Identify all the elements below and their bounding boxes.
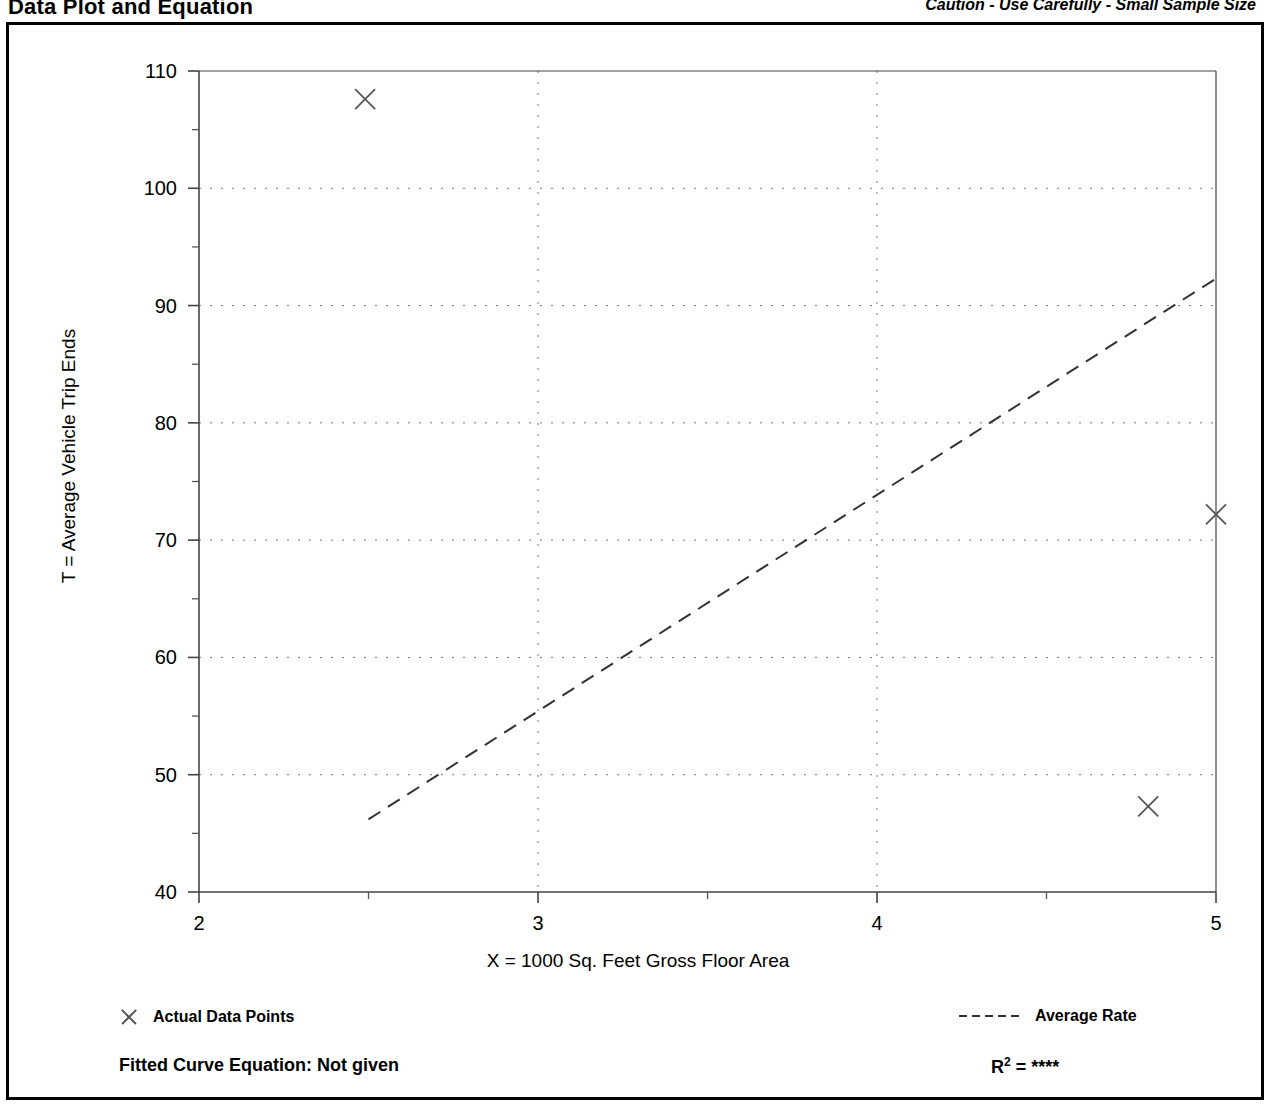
legend-label-average-rate: Average Rate	[1035, 1007, 1137, 1025]
r-squared-exponent: 2	[1004, 1055, 1011, 1069]
svg-text:50: 50	[155, 764, 177, 786]
fitted-curve-equation: Fitted Curve Equation: Not given	[119, 1055, 399, 1076]
svg-text:5: 5	[1210, 912, 1221, 934]
header-row: Data Plot and Equation Caution - Use Car…	[0, 0, 1276, 22]
svg-text:110: 110	[145, 60, 177, 82]
svg-text:100: 100	[144, 177, 177, 199]
r-squared-symbol: R	[991, 1057, 1004, 1077]
axis-tick-labels: 4050607080901001102345	[144, 60, 1222, 934]
chart-legend: Actual Data Points Average Rate	[9, 1007, 1267, 1047]
legend-item-actual-data-points: Actual Data Points	[119, 1007, 294, 1027]
svg-text:2: 2	[193, 912, 204, 934]
svg-text:80: 80	[155, 412, 177, 434]
svg-text:40: 40	[155, 881, 177, 903]
svg-text:90: 90	[155, 295, 177, 317]
chart-footer: Fitted Curve Equation: Not given R2 = **…	[9, 1055, 1267, 1095]
r-squared-value: R2 = ****	[991, 1055, 1059, 1078]
x-axis-label: X = 1000 Sq. Feet Gross Floor Area	[9, 950, 1267, 972]
dashed-line-icon	[959, 1015, 1021, 1017]
x-marker-icon	[119, 1007, 139, 1027]
legend-label-actual-data-points: Actual Data Points	[153, 1008, 294, 1026]
legend-item-average-rate: Average Rate	[959, 1007, 1137, 1025]
page-title: Data Plot and Equation	[8, 0, 253, 20]
svg-text:70: 70	[155, 529, 177, 551]
svg-text:3: 3	[532, 912, 543, 934]
axis-lines	[199, 71, 1216, 892]
grid-lines	[199, 71, 1216, 892]
svg-text:4: 4	[871, 912, 882, 934]
data-point-x-marker	[355, 89, 375, 109]
data-point-markers	[355, 89, 1226, 816]
svg-text:60: 60	[155, 646, 177, 668]
axis-ticks	[188, 71, 1216, 903]
caution-note: Caution - Use Carefully - Small Sample S…	[925, 0, 1256, 14]
chart-frame: 4050607080901001102345 T = Average Vehic…	[6, 22, 1264, 1100]
data-point-x-marker	[1138, 796, 1158, 816]
y-axis-label: T = Average Vehicle Trip Ends	[58, 246, 80, 666]
r-squared-number: = ****	[1016, 1057, 1060, 1077]
average-rate-line	[369, 279, 1217, 820]
plot-canvas: 4050607080901001102345	[9, 25, 1267, 1103]
